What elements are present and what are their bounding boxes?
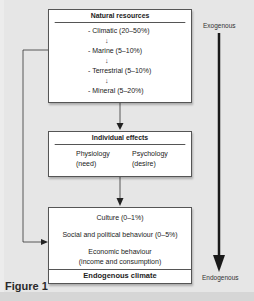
- climate-item-economic: Economic behaviour: [48, 247, 192, 256]
- down-arrow-icon: ↓: [105, 37, 109, 44]
- endogenous-label: Endogenous: [202, 274, 239, 281]
- natural-resource-item: - Terrestrial (5–10%): [88, 66, 151, 75]
- endogenous-climate-title: Endogenous climate: [49, 269, 191, 283]
- climate-item-culture: Culture (0–1%): [48, 213, 192, 222]
- arrowhead-individual-to-climate: [117, 198, 124, 206]
- physiology-label: Physiology: [76, 149, 110, 158]
- feedback-line: [23, 50, 48, 242]
- natural-resource-item: - Climatic (20–50%): [88, 26, 149, 35]
- figure-label: Figure 1: [5, 280, 48, 292]
- natural-resources-title: Natural resources: [55, 10, 186, 23]
- feedback-arrowhead: [41, 239, 48, 245]
- arrowhead-nat-to-individual: [117, 123, 124, 130]
- individual-effects-box: Individual effects: [48, 131, 192, 177]
- physiology-sublabel: (need): [76, 159, 96, 168]
- scale-arrowhead: [213, 255, 225, 272]
- natural-resource-item: - Marine (5–10%): [88, 46, 142, 55]
- climate-item-social: Social and political behaviour (0–5%): [48, 230, 192, 239]
- down-arrow-icon: ↓: [105, 57, 109, 64]
- climate-item-economic-sub: (income and consumption): [48, 257, 192, 266]
- individual-effects-title: Individual effects: [55, 132, 186, 145]
- psychology-label: Psychology: [132, 149, 168, 158]
- natural-resource-item: - Mineral (5–20%): [88, 86, 144, 95]
- down-arrow-icon: ↓: [105, 77, 109, 84]
- exogenous-label: Exogenous: [203, 22, 236, 29]
- psychology-sublabel: (desire): [132, 159, 156, 168]
